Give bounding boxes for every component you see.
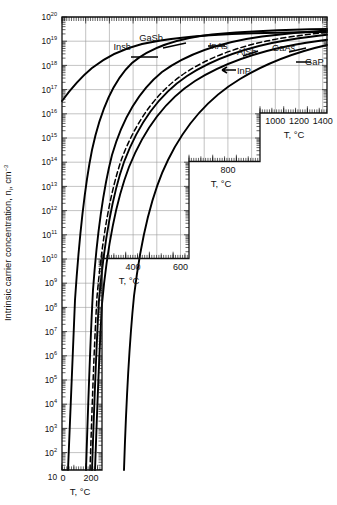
xaxis-title-2: T, °C <box>211 178 232 189</box>
y-title-main: Intrinsic carrier concentration, n <box>2 190 13 321</box>
label-gap: GaP <box>305 57 324 67</box>
curve-gasb <box>68 29 327 470</box>
label-gasb: GaSb <box>139 33 163 43</box>
curve-inas <box>86 31 327 471</box>
xtick-400: 400 <box>126 262 141 272</box>
svg-text:Intrinsic carrier concentratio: Intrinsic carrier concentration, ni, cm−… <box>2 165 14 321</box>
y-tick-label-11: 109 <box>45 277 57 288</box>
y-axis-tick-labels: 1020101910181017101610151014101310121011… <box>42 11 58 482</box>
label-inas: InAs <box>209 41 228 51</box>
y-title-unit-sup: −3 <box>3 165 9 171</box>
y-tick-label-1: 1019 <box>42 35 57 46</box>
xtick-800: 800 <box>220 165 235 175</box>
curve-gaas <box>95 40 327 470</box>
xtick-0: 0 <box>60 473 65 483</box>
xtick-1200: 1200 <box>289 116 309 126</box>
y-tick-label-10: 1010 <box>42 253 57 264</box>
label-inp: InP <box>237 66 251 76</box>
y-tick-label-2: 1018 <box>42 60 57 71</box>
y-tick-label-13: 107 <box>45 326 57 337</box>
xaxis-title-1: T, °C <box>284 129 305 140</box>
y-tick-label-15: 105 <box>45 374 57 385</box>
xtick-600: 600 <box>173 262 188 272</box>
y-tick-label-7: 1013 <box>42 181 57 192</box>
y-tick-label-14: 106 <box>45 350 57 361</box>
xaxis-title-4: T, °C <box>70 486 91 497</box>
curve-inp-dashed <box>90 33 327 471</box>
y-tick-label-4: 1016 <box>42 108 57 119</box>
y-title-unit: , cm <box>2 171 13 189</box>
y-tick-label-19: 10 <box>48 472 58 482</box>
x-panel-800: 800 T, °C <box>211 165 236 190</box>
plot-frame-staircase <box>62 17 327 470</box>
y-tick-label-3: 1017 <box>42 84 57 95</box>
riser-minor-ticks <box>97 18 327 469</box>
y-tick-label-5: 1015 <box>42 132 57 143</box>
y-tick-label-0: 1020 <box>42 11 57 22</box>
xtick-1000: 1000 <box>265 116 285 126</box>
label-alsb: AlSb <box>237 47 257 57</box>
y-axis-title: Intrinsic carrier concentration, ni, cm−… <box>2 165 14 321</box>
top-edge-minor-ticks <box>62 17 327 24</box>
leader-inp <box>222 67 236 73</box>
label-gaas: GaAs <box>272 43 296 53</box>
y-tick-label-12: 108 <box>45 302 57 313</box>
y-tick-label-9: 1011 <box>42 229 57 240</box>
y-tick-label-6: 1014 <box>42 156 57 167</box>
y-tick-label-16: 104 <box>45 398 57 409</box>
y-axis-ticks <box>62 17 67 470</box>
x-panel-0-200: 0 200 T, °C <box>60 473 98 497</box>
x-panel-1000-1400: 1000 1400 1200 T, °C <box>265 116 332 140</box>
y-tick-label-8: 1012 <box>42 205 57 216</box>
chart-svg: 1020101910181017101610151014101310121011… <box>0 0 337 505</box>
xaxis-title-3: T, °C <box>119 275 140 286</box>
label-insb: Insb <box>113 42 131 52</box>
xtick-1400: 1400 <box>313 116 333 126</box>
y-tick-label-17: 103 <box>45 423 57 434</box>
xtick-200: 200 <box>83 473 98 483</box>
y-tick-label-18: 102 <box>45 447 57 458</box>
x-panel-400-600: 400 600 T, °C <box>119 262 188 287</box>
figure-root: 1020101910181017101610151014101310121011… <box>0 0 337 505</box>
